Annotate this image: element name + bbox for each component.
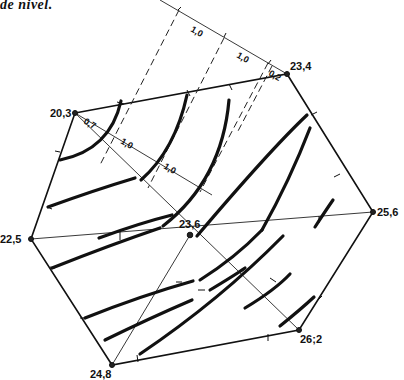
vertex-24-8 <box>110 363 115 368</box>
label-26-2: 26;2 <box>300 333 322 345</box>
dist-inner-3: 1,0 <box>162 161 178 176</box>
vertex-23-4 <box>285 72 290 77</box>
label-20-3: 20,3 <box>50 107 71 119</box>
label-23-4: 23,4 <box>290 60 312 72</box>
label-24-8: 24,8 <box>90 368 111 380</box>
dist-inner-2: 1,0 <box>119 136 135 151</box>
label-25-6: 25,6 <box>377 206 398 218</box>
dist-top-2: 1,0 <box>235 50 251 65</box>
contour-diagram: 20,3 23,4 25,6 26;2 24,8 22,5 23,6 1,0 1… <box>0 0 404 380</box>
vertex-22-5 <box>29 237 34 242</box>
vertex-20-3 <box>73 111 78 116</box>
label-23-6: 23,6 <box>179 218 200 230</box>
label-22-5: 22,5 <box>0 233 21 245</box>
dist-top-1: 1,0 <box>189 24 205 39</box>
vertex-26-2 <box>297 328 302 333</box>
distance-labels: 1,0 1,0 0,2 0,7 1,0 1,0 <box>82 24 283 176</box>
vertex-23-6 <box>187 232 193 238</box>
vertex-labels: 20,3 23,4 25,6 26;2 24,8 22,5 23,6 <box>0 60 398 380</box>
vertex-25-6 <box>371 210 376 215</box>
